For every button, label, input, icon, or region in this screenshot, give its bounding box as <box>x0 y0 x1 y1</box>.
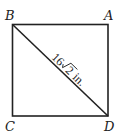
square-diagram: B A C D 16 2 in. <box>0 0 124 137</box>
vertex-label-c: C <box>5 119 15 134</box>
vertex-label-d: D <box>103 119 115 134</box>
vertex-label-a: A <box>103 8 113 23</box>
diagonal-length-number: 16 <box>49 50 67 68</box>
diagonal-length-label: 16 2 in. <box>49 50 89 89</box>
diagonal-length-unit: in. <box>70 70 89 89</box>
diagonal-bd <box>13 25 109 117</box>
vertex-label-b: B <box>4 8 15 23</box>
